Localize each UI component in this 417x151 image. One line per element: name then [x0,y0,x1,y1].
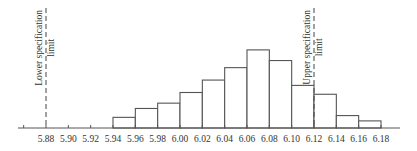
spec-label-line: Upper specification [302,10,312,85]
x-tick-label: 6.04 [216,134,233,144]
x-tick-label: 5.96 [127,134,144,144]
upper-spec-limit-label: Upper specificationlimit [302,10,324,85]
histogram-bar [202,80,224,128]
spec-label-line: limit [46,39,56,57]
histogram-bar [180,93,202,129]
x-tick-label: 6.18 [373,134,390,144]
x-tick-label: 6.02 [194,134,211,144]
spec-label-line: Lower specification [34,10,44,86]
x-tick-label: 6.10 [283,134,300,144]
histogram-bar [314,94,336,128]
x-tick-label: 5.90 [60,134,77,144]
x-tick-label: 5.94 [105,134,122,144]
x-tick-label: 6.12 [306,134,323,144]
x-tick-label: 6.16 [350,134,367,144]
x-tick-label: 5.92 [82,134,99,144]
x-tick-label: 6.14 [328,134,345,144]
histogram-bar [135,108,157,128]
histogram-bar [247,50,269,128]
x-tick-label: 6.00 [172,134,189,144]
spec-label-line: limit [314,38,324,56]
histogram-bar [225,68,247,128]
histogram-bar [292,85,314,128]
x-tick-label: 6.08 [261,134,278,144]
x-tick-label: 5.98 [149,134,166,144]
x-axis-tick-labels: 5.885.905.925.945.965.986.006.026.046.06… [38,134,390,144]
x-tick-label: 5.88 [38,134,55,144]
histogram-bar [269,61,291,128]
histogram-bar [158,103,180,128]
lower-spec-limit-label: Lower specificationlimit [34,10,56,86]
histogram-bars [113,50,381,128]
histogram-bar [113,117,135,128]
histogram-bar [359,121,381,128]
x-tick-label: 6.06 [239,134,256,144]
histogram-bar [336,116,358,128]
histogram-chart: 5.885.905.925.945.965.986.006.026.046.06… [0,0,417,151]
